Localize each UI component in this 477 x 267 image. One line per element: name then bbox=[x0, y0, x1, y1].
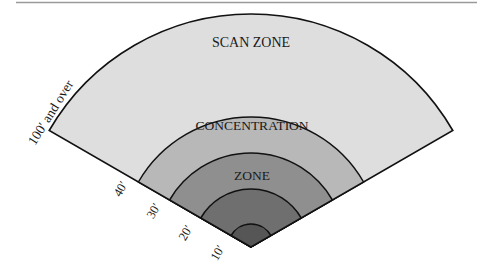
concentration-zone-label: ZONE bbox=[234, 168, 270, 183]
visual-field-zone-diagram: SCAN ZONE CONCENTRATION ZONE 100′ and ov… bbox=[0, 0, 477, 267]
concentration-label: CONCENTRATION bbox=[195, 118, 308, 133]
scan-zone-label: SCAN ZONE bbox=[212, 35, 290, 50]
range-label-20: 20′ bbox=[176, 223, 196, 243]
range-label-10: 10′ bbox=[208, 243, 228, 263]
range-label-30: 30′ bbox=[144, 201, 164, 221]
range-label-40: 40′ bbox=[111, 179, 131, 199]
